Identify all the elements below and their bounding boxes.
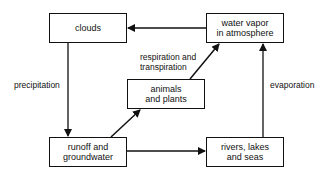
edge-label-respiration-1: respiration and: [140, 52, 196, 62]
node-water-vapor-line1: water vapor: [221, 18, 268, 28]
node-rivers-line2: and seas: [227, 152, 264, 162]
node-clouds: clouds: [49, 13, 127, 43]
node-animals-plants: animals and plants: [127, 79, 205, 109]
edge-label-respiration-2: transpiration: [140, 62, 187, 72]
node-rivers-line1: rivers, lakes: [221, 142, 269, 152]
node-animals-line2: and plants: [145, 94, 187, 104]
arrow-runoff-to-animals: [111, 110, 140, 137]
node-runoff-line1: runoff and: [68, 142, 108, 152]
node-runoff: runoff and groundwater: [49, 137, 127, 167]
node-animals-line1: animals: [150, 84, 181, 94]
edge-label-evaporation: evaporation: [270, 80, 314, 90]
node-water-vapor-line2: in atmosphere: [216, 28, 273, 38]
edge-label-precipitation: precipitation: [14, 80, 60, 90]
node-water-vapor: water vapor in atmosphere: [206, 13, 284, 43]
node-clouds-label: clouds: [75, 23, 101, 33]
node-rivers: rivers, lakes and seas: [206, 137, 284, 167]
node-runoff-line2: groundwater: [63, 152, 113, 162]
